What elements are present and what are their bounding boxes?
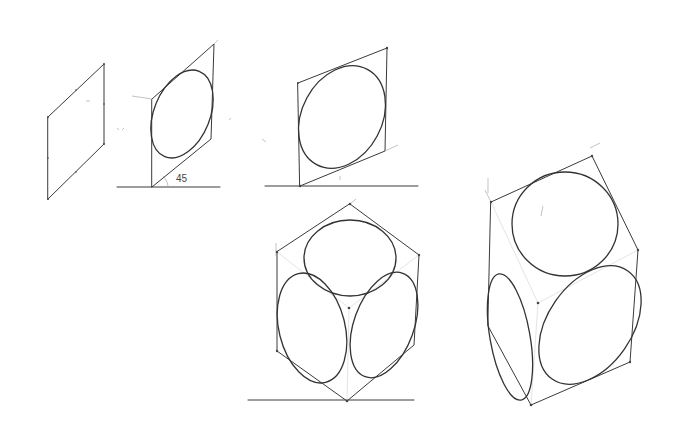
panel-parallelogram [47,63,119,200]
angle-label: 45 [176,173,188,184]
panel-parallelogram-ellipse-shallow [262,47,418,187]
panel-rotated-cube [479,143,662,406]
sketch-canvas: 45 [0,0,680,440]
panel-isometric-cube [248,199,431,402]
panel-parallelogram-ellipse-45: 45 [117,40,231,187]
